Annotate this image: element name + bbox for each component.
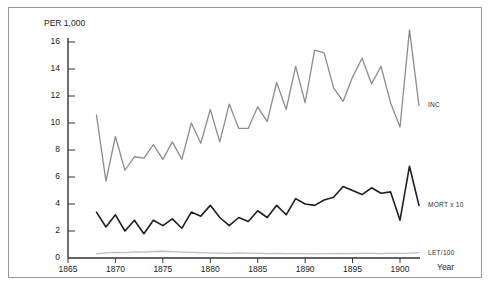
chart-plot-area: PER 1,000 Year 0246810121416 18651870187… <box>0 0 492 288</box>
series-line-let-100 <box>96 251 419 254</box>
y-axis-tick-label: 8 <box>38 144 60 154</box>
x-axis-tick-label: 1870 <box>95 264 135 274</box>
x-axis-tick-label: 1895 <box>333 264 373 274</box>
y-axis-unit-label: PER 1,000 <box>44 18 85 28</box>
series-line-inc <box>96 30 419 181</box>
series-label-let-100: LET/100 <box>428 249 455 256</box>
y-axis-tick-label: 2 <box>38 225 60 235</box>
series-label-mort-x-10: MORT x 10 <box>428 201 464 208</box>
x-axis-tick-label: 1900 <box>380 264 420 274</box>
y-axis-tick-label: 4 <box>38 198 60 208</box>
x-axis-tick-label: 1890 <box>285 264 325 274</box>
y-axis-tick-label: 14 <box>38 63 60 73</box>
y-axis-tick-label: 6 <box>38 171 60 181</box>
x-axis-tick-label: 1865 <box>48 264 88 274</box>
y-axis-tick-label: 16 <box>38 36 60 46</box>
chart-series <box>96 30 419 254</box>
y-axis-tick-label: 12 <box>38 90 60 100</box>
chart-canvas <box>0 0 492 288</box>
y-axis-tick-label: 0 <box>38 252 60 262</box>
x-axis-tick-label: 1885 <box>238 264 278 274</box>
x-axis-title: Year <box>437 262 454 272</box>
series-label-inc: INC <box>428 101 440 108</box>
x-axis-tick-label: 1875 <box>143 264 183 274</box>
series-line-mort-x-10 <box>96 166 419 234</box>
y-axis-tick-label: 10 <box>38 117 60 127</box>
x-axis-tick-label: 1880 <box>190 264 230 274</box>
